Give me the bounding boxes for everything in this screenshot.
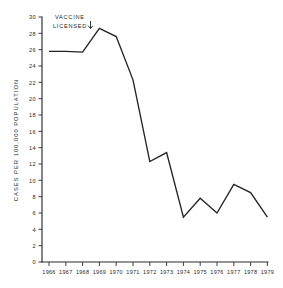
x-tick-label: 1977 [227, 269, 240, 275]
x-tick-label: 1974 [177, 269, 190, 275]
x-axis-tick-labels: 1966 1967 1968 1969 1970 1971 1972 1973 … [42, 269, 274, 275]
x-tick-label: 1969 [93, 269, 106, 275]
y-axis-tick-labels: 30 28 26 24 22 20 18 16 14 12 10 8 6 4 2… [29, 14, 36, 265]
x-tick-label: 1967 [59, 269, 72, 275]
x-tick-label: 1979 [261, 269, 274, 275]
y-tick-label: 6 [32, 210, 36, 216]
y-tick-label: 12 [29, 161, 36, 167]
y-tick-label: 26 [29, 47, 36, 53]
y-tick-label: 16 [29, 129, 36, 135]
y-tick-label: 28 [29, 31, 36, 37]
y-tick-label: 22 [29, 80, 36, 86]
down-arrow-icon [88, 21, 93, 29]
x-tick-label: 1966 [42, 269, 55, 275]
annotation-vaccine-line-2: LICENSED [53, 23, 87, 29]
y-tick-label: 0 [32, 259, 36, 265]
annotation-vaccine-line-1: VACCINE [55, 14, 85, 20]
x-tick-label: 1972 [143, 269, 156, 275]
y-tick-label: 24 [29, 63, 36, 69]
chart-canvas: 30 28 26 24 22 20 18 16 14 12 10 8 6 4 2… [0, 0, 283, 288]
y-tick-label: 14 [29, 145, 36, 151]
y-tick-label: 8 [32, 194, 36, 200]
y-tick-label: 4 [32, 227, 36, 233]
vaccine-cases-line-chart: 30 28 26 24 22 20 18 16 14 12 10 8 6 4 2… [0, 0, 283, 288]
x-tick-label: 1975 [193, 269, 206, 275]
y-tick-label: 10 [29, 178, 36, 184]
x-tick-label: 1973 [160, 269, 173, 275]
x-tick-label: 1970 [109, 269, 122, 275]
y-tick-label: 2 [32, 243, 36, 249]
x-tick-label: 1978 [244, 269, 257, 275]
y-tick-label: 30 [29, 14, 36, 20]
data-series-line [49, 28, 267, 217]
x-tick-label: 1976 [210, 269, 223, 275]
y-tick-label: 20 [29, 96, 36, 102]
y-axis-title: CASES PER 100,000 POPULATION [13, 79, 19, 201]
x-tick-label: 1971 [126, 269, 139, 275]
x-axis-ticks [49, 262, 267, 266]
y-tick-label: 18 [29, 112, 36, 118]
x-tick-label: 1968 [76, 269, 89, 275]
